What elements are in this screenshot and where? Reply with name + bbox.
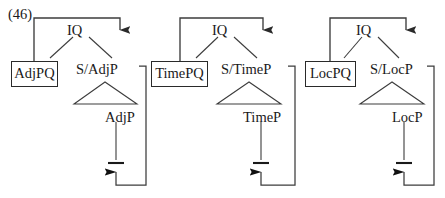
adjp-triangle-label: AdjP bbox=[105, 110, 135, 125]
locp-tree-lines bbox=[330, 18, 434, 185]
timep-boxed-node: TimePQ bbox=[151, 61, 208, 87]
locp-branch-right bbox=[378, 37, 399, 58]
adjp-gap-movement-arrow bbox=[116, 66, 146, 185]
timep-boxed-node-base: TimeP bbox=[155, 66, 193, 81]
locp-boxed-node: LocPQ bbox=[305, 61, 356, 87]
figure-canvas: (46) IQ AdjPQ S/AdjP AdjP IQ TimePQ S/Ti… bbox=[0, 0, 445, 198]
timep-branch-right bbox=[234, 37, 257, 58]
locp-boxed-node-base: LocP bbox=[310, 66, 341, 81]
timep-branch-left bbox=[196, 37, 218, 58]
adjp-branch-left bbox=[50, 37, 73, 58]
example-number: (46) bbox=[8, 7, 32, 22]
adjp-root-label: IQ bbox=[67, 23, 82, 38]
adjp-triangle bbox=[74, 82, 137, 104]
locp-slash-label: S/LocP bbox=[370, 62, 413, 77]
timep-triangle bbox=[217, 82, 281, 104]
locp-root-label: IQ bbox=[356, 23, 371, 38]
adjp-boxed-node-subscript: Q bbox=[44, 66, 54, 81]
locp-triangle bbox=[360, 82, 424, 104]
adjp-tree-lines bbox=[34, 18, 146, 185]
adjp-boxed-node-base: AdjP bbox=[14, 66, 44, 81]
locp-triangle-label: LocP bbox=[392, 110, 423, 125]
timep-root-label: IQ bbox=[212, 23, 227, 38]
adjp-branch-right bbox=[89, 37, 112, 58]
adjp-boxed-node: AdjPQ bbox=[11, 61, 58, 87]
adjp-slash-label: S/AdjP bbox=[76, 62, 118, 77]
locp-branch-left bbox=[344, 37, 362, 58]
timep-slash-label: S/TimeP bbox=[221, 62, 271, 77]
timep-gap-movement-arrow bbox=[261, 66, 295, 185]
timep-tree-lines bbox=[180, 18, 295, 185]
timep-triangle-label: TimeP bbox=[243, 110, 281, 125]
timep-boxed-node-subscript: Q bbox=[193, 66, 203, 81]
locp-boxed-node-subscript: Q bbox=[341, 66, 351, 81]
locp-gap-movement-arrow bbox=[404, 66, 434, 185]
